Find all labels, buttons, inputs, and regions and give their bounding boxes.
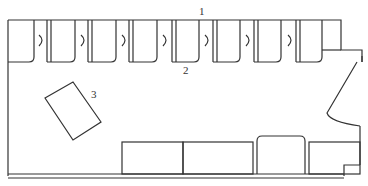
top-wall [8,20,362,62]
door-arc-icon [205,35,208,46]
stall-7 [254,20,291,62]
stall-6 [213,20,249,62]
label-2: 2 [183,65,189,76]
stall-row [8,20,341,62]
door-arc-icon [122,35,125,46]
label-3: 3 [91,89,97,100]
stall-5 [172,20,208,62]
bottom-fixtures [122,136,360,174]
stall-3 [88,20,125,62]
door-arc-icon [163,35,166,46]
stall-4 [129,20,166,62]
floor-plan-diagram [0,0,368,186]
door-arc-icon [81,35,84,46]
counter-middle [183,142,253,174]
label-1: 1 [199,6,205,17]
door-arc-icon [288,35,291,46]
door-arc-icon [246,35,249,46]
rounded-unit [257,136,305,174]
counter-left [122,142,183,174]
entrance-diagonal [327,62,360,126]
door-arc-icon [39,35,42,46]
counter-right [309,142,360,174]
stall-1 [8,20,42,62]
stall-2 [47,20,84,62]
stall-8 [296,20,322,62]
